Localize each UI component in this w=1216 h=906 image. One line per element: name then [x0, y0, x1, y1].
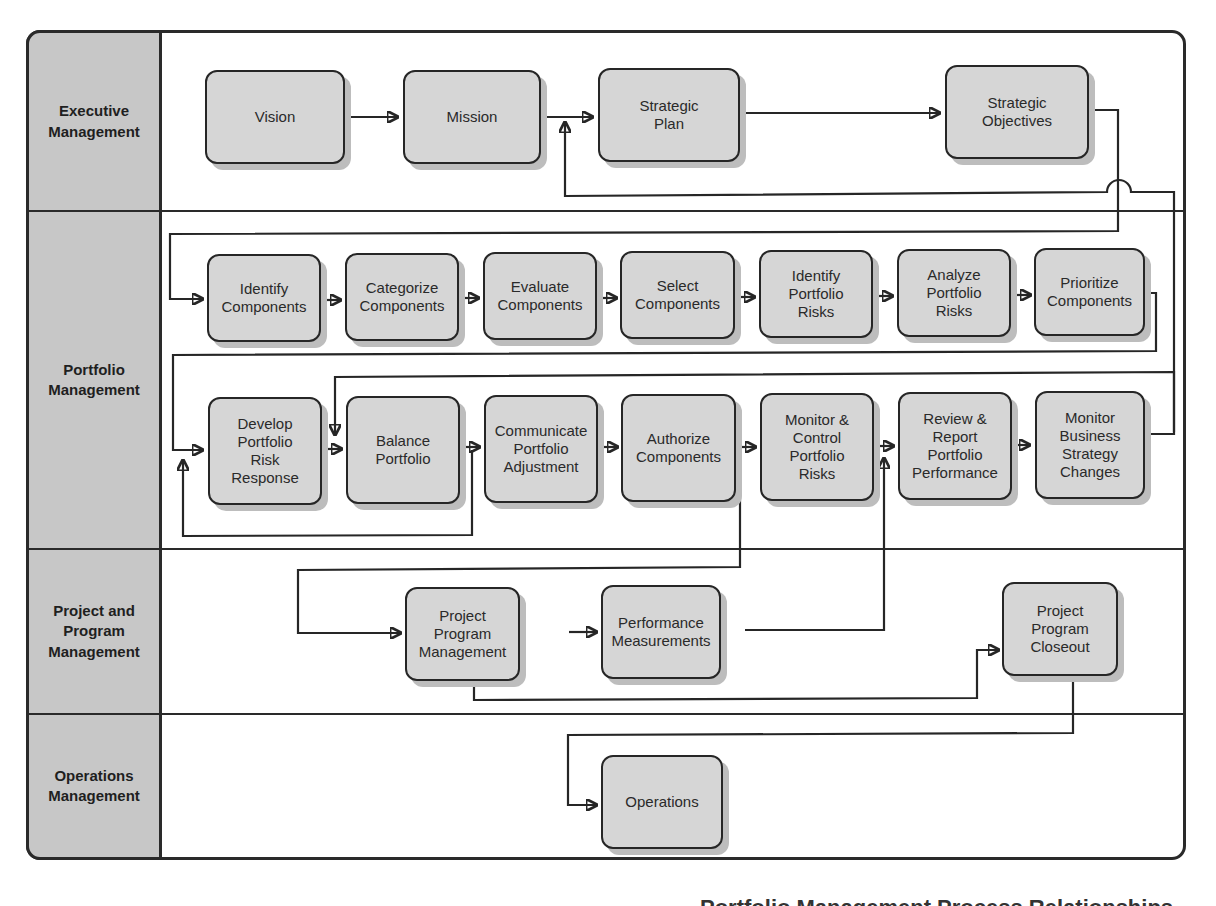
node-monitor-business-strategy-changes: Monitor Business Strategy Changes	[1035, 391, 1145, 499]
figure-caption: Portfolio Management Process Relationshi…	[700, 893, 1173, 906]
node-mission: Mission	[403, 70, 541, 164]
lane-label-project-program: Project and Program Management	[29, 550, 159, 713]
node-vision: Vision	[205, 70, 345, 164]
node-project-program-closeout: Project Program Closeout	[1002, 582, 1118, 676]
node-categorize-components: Categorize Components	[345, 253, 459, 341]
lane-label-executive: Executive Management	[29, 33, 159, 210]
node-analyze-portfolio-risks: Analyze Portfolio Risks	[897, 249, 1011, 337]
lane-label-portfolio: Portfolio Management	[29, 212, 159, 548]
lane-label-operations: Operations Management	[29, 715, 159, 857]
portfolio-process-diagram: Executive Management Portfolio Managemen…	[0, 0, 1216, 906]
node-performance-measurements: Performance Measurements	[601, 585, 721, 679]
node-monitor-control-portfolio-risks: Monitor & Control Portfolio Risks	[760, 393, 874, 501]
node-strategic-objectives: Strategic Objectives	[945, 65, 1089, 159]
node-communicate-portfolio-adjustment: Communicate Portfolio Adjustment	[484, 395, 598, 503]
node-authorize-components: Authorize Components	[621, 394, 736, 502]
node-operations: Operations	[601, 755, 723, 849]
lane-divider	[26, 210, 1186, 212]
lane-divider	[26, 713, 1186, 715]
node-identify-portfolio-risks: Identify Portfolio Risks	[759, 250, 873, 338]
node-project-program-management: Project Program Management	[405, 587, 520, 681]
node-identify-components: Identify Components	[207, 254, 321, 342]
node-strategic-plan: Strategic Plan	[598, 68, 740, 162]
node-prioritize-components: Prioritize Components	[1034, 248, 1145, 336]
node-select-components: Select Components	[620, 251, 735, 339]
node-balance-portfolio: Balance Portfolio	[346, 396, 460, 504]
node-review-report-portfolio-performance: Review & Report Portfolio Performance	[898, 392, 1012, 500]
lane-divider	[26, 548, 1186, 550]
node-evaluate-components: Evaluate Components	[483, 252, 597, 340]
node-develop-portfolio-risk-response: Develop Portfolio Risk Response	[208, 397, 322, 505]
